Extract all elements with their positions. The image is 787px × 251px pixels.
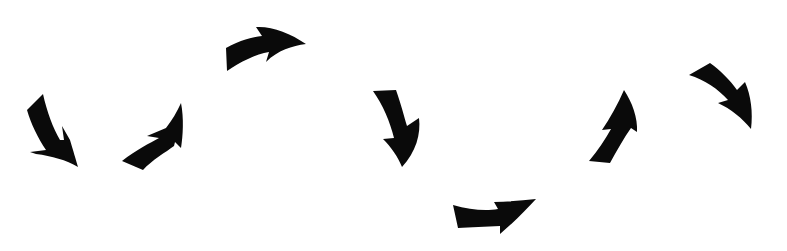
curved-arrow-down-icon [689,63,752,129]
curved-arrow-right-icon [453,199,536,234]
arrow-canvas [0,0,787,251]
curved-arrow-down-icon [373,90,419,167]
curved-arrow-down-icon [27,94,78,167]
curved-arrow-right-icon [226,27,306,71]
curved-arrow-up-icon [122,103,183,170]
curved-arrow-up-icon [589,90,637,163]
